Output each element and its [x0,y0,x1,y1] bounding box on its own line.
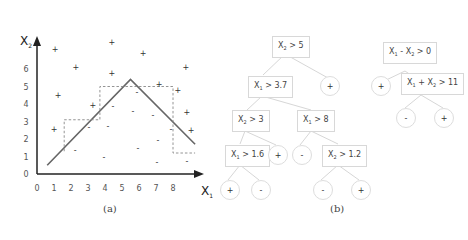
edge [247,96,262,110]
edge [405,95,421,108]
leaf-node: + [320,76,340,96]
leaf-node: + [268,145,288,165]
edge [311,131,338,144]
oblique-leaf-node: + [371,76,391,96]
tree-node-root: X2 > 5 [272,36,310,58]
edge [321,165,338,180]
edge [338,165,359,180]
tree-node: X2 > 3 [232,110,270,132]
oblique-tree-node: X1 + X2 > 11 [401,73,464,95]
tree-node: X1 > 8 [297,110,335,132]
edge [228,165,240,180]
edge [245,131,276,145]
edge [240,131,245,144]
tree-node: X2 > 1.2 [322,145,367,167]
leaf-node: - [292,145,312,165]
leaf-node: + [351,180,371,200]
oblique-leaf-node: + [434,108,454,128]
leaf-node: + [220,180,240,200]
oblique-tree-node-root: X1 - X2 > 0 [383,42,437,64]
tree-node: X1 > 3.7 [248,76,293,98]
edge [300,131,311,145]
tree-node: X1 > 1.6 [225,145,270,167]
oblique-leaf-node: - [396,108,416,128]
leaf-node: - [251,180,271,200]
edge [240,165,259,180]
edge [262,96,311,110]
leaf-node: - [313,180,333,200]
caption-b: (b) [330,203,344,214]
edge [421,95,443,108]
